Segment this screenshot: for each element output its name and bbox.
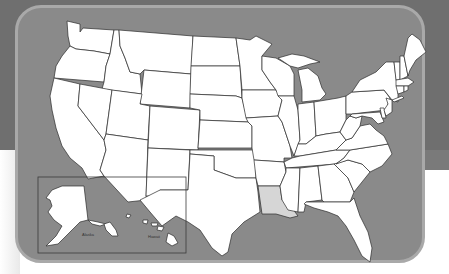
us-map: Alaska Hawaii	[0, 0, 449, 274]
state-arkansas[interactable]	[254, 160, 286, 186]
state-indiana[interactable]	[298, 102, 316, 144]
state-colorado[interactable]	[148, 106, 200, 150]
state-florida[interactable]	[304, 198, 372, 262]
hawaii-big-island[interactable]	[166, 233, 178, 246]
inset-label-alaska: Alaska	[82, 232, 95, 237]
state-iowa[interactable]	[242, 90, 282, 118]
inset-label-hawaii: Hawaii	[148, 234, 160, 239]
state-north-dakota[interactable]	[191, 36, 240, 66]
state-rhode-island[interactable]	[404, 86, 408, 92]
alaska-panhandle	[88, 220, 106, 226]
state-massachusetts[interactable]	[396, 78, 414, 86]
state-alaska[interactable]	[46, 186, 88, 246]
state-south-dakota[interactable]	[190, 66, 242, 98]
state-wyoming[interactable]	[140, 70, 191, 108]
state-kansas[interactable]	[198, 120, 252, 148]
hawaii-maui[interactable]	[157, 226, 164, 231]
state-new-mexico[interactable]	[146, 148, 190, 196]
state-montana[interactable]	[119, 30, 193, 74]
hawaii-molokai[interactable]	[151, 223, 158, 226]
hawaii-oahu[interactable]	[143, 220, 148, 224]
state-michigan-lower[interactable]	[298, 68, 326, 102]
state-arizona[interactable]	[100, 134, 148, 202]
state-maine[interactable]	[404, 34, 426, 76]
alaska-kodiak	[104, 222, 118, 236]
hawaii-kauai[interactable]	[126, 214, 131, 218]
